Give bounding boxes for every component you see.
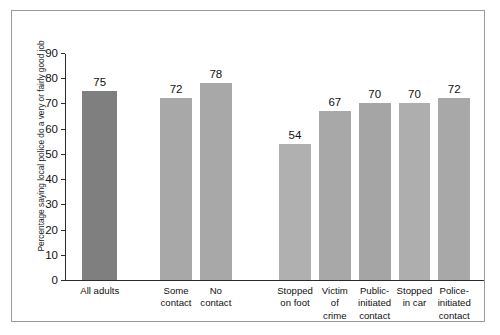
y-axis-tick-mark xyxy=(61,129,65,130)
y-axis-tick: 10 xyxy=(65,255,66,256)
y-axis-tick-label: 30 xyxy=(45,198,58,210)
bar: 67 xyxy=(319,111,351,280)
y-axis-tick-label: 10 xyxy=(45,249,58,261)
bar-value-label: 78 xyxy=(209,68,222,80)
x-axis-category-label: No contact xyxy=(196,285,236,310)
y-axis-tick-label: 20 xyxy=(45,224,58,236)
x-axis-category-label: Victim of crime xyxy=(315,285,355,322)
bar-value-label: 54 xyxy=(289,129,302,141)
x-axis-category-label: Stopped on foot xyxy=(275,285,315,310)
y-axis-tick-mark xyxy=(61,255,65,256)
y-axis-tick: 60 xyxy=(65,129,66,130)
bar: 78 xyxy=(200,83,232,280)
bar: 75 xyxy=(82,91,117,280)
bar: 72 xyxy=(438,98,470,280)
y-axis-tick-mark xyxy=(61,230,65,231)
y-axis-tick-label: 90 xyxy=(45,47,58,59)
y-axis-tick-mark xyxy=(61,179,65,180)
bar-value-label: 72 xyxy=(170,83,183,95)
x-axis-category-label: Some contact xyxy=(156,285,196,310)
bar: 70 xyxy=(399,103,431,280)
y-axis-tick: 50 xyxy=(65,154,66,155)
y-axis-tick-label: 0 xyxy=(52,274,58,286)
bar: 54 xyxy=(279,144,311,280)
bar: 70 xyxy=(359,103,391,280)
y-axis-tick-label: 40 xyxy=(45,173,58,185)
y-axis-tick: 0 xyxy=(65,280,66,281)
y-axis-tick: 40 xyxy=(65,179,66,180)
bar-value-label: 72 xyxy=(448,83,461,95)
bar-value-label: 67 xyxy=(328,96,341,108)
y-axis-tick: 20 xyxy=(65,230,66,231)
y-axis-tick-mark xyxy=(61,280,65,281)
bar: 72 xyxy=(160,98,192,280)
y-axis-line xyxy=(65,54,66,281)
y-axis-tick-label: 60 xyxy=(45,123,58,135)
x-axis-category-label: Stopped in car xyxy=(394,285,434,310)
plot-area: 9080706050403020100 7572785467707072 All… xyxy=(65,44,484,281)
bar-value-label: 75 xyxy=(93,76,106,88)
y-axis-tick: 80 xyxy=(65,78,66,79)
x-axis-category-label: Police- initiated contact xyxy=(434,285,474,322)
x-axis-category-label: All adults xyxy=(78,285,122,297)
y-axis-tick-mark xyxy=(61,103,65,104)
y-axis-tick-label: 80 xyxy=(45,72,58,84)
y-axis-tick-label: 50 xyxy=(45,148,58,160)
y-axis-tick-mark xyxy=(61,53,65,54)
x-axis-line xyxy=(65,280,484,281)
y-axis-tick-mark xyxy=(61,78,65,79)
bar-value-label: 70 xyxy=(368,88,381,100)
y-axis-tick-mark xyxy=(61,204,65,205)
y-axis-tick: 90 xyxy=(65,53,66,54)
y-axis-tick: 30 xyxy=(65,204,66,205)
chart-frame: Percentage saying local police do a very… xyxy=(11,10,485,322)
y-axis-tick-label: 70 xyxy=(45,97,58,109)
y-axis-tick-mark xyxy=(61,154,65,155)
y-axis-tick: 70 xyxy=(65,103,66,104)
x-axis-category-label: Public- initiated contact xyxy=(355,285,395,322)
bar-value-label: 70 xyxy=(408,88,421,100)
